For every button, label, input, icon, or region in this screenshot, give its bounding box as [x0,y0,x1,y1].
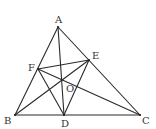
segment-AB [15,27,58,115]
segment-AD [58,27,64,115]
geometry-diagram: A B C D E F O [0,0,156,129]
point-F [37,68,39,70]
point-E [88,59,90,61]
point-A [57,26,59,28]
label-D: D [61,118,69,129]
segment-FD [38,69,64,115]
label-B: B [4,115,11,126]
point-B [14,114,16,116]
label-A: A [54,14,63,25]
label-O: O [66,83,74,94]
label-C: C [142,115,150,126]
label-E: E [92,50,99,61]
segment-FE [38,60,89,69]
label-F: F [28,62,35,73]
point-C [139,114,141,116]
point-D [63,114,65,116]
point-O [61,79,63,81]
segment-CF [38,69,140,115]
labels: A B C D E F O [4,14,150,129]
